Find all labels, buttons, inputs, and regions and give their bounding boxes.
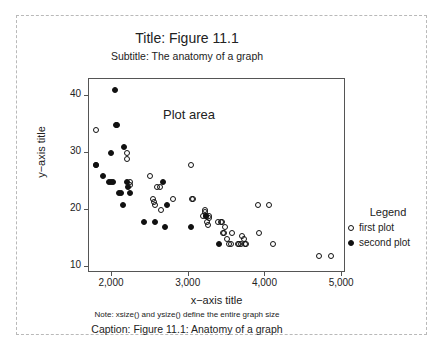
data-point-second-plot [108, 150, 114, 156]
data-point-second-plot [188, 224, 194, 230]
data-point-first-plot [243, 241, 249, 247]
data-point-second-plot [203, 213, 209, 219]
data-point-second-plot [164, 202, 170, 208]
data-point-second-plot [127, 190, 133, 196]
data-point-second-plot [120, 202, 126, 208]
data-point-first-plot [255, 202, 261, 208]
chart-note: Note: xsize() and ysize() define the ent… [17, 310, 357, 319]
data-point-second-plot [141, 219, 147, 225]
plot-area: Plot area [88, 78, 345, 272]
legend-entry: first plot [348, 222, 440, 233]
filled-circle-icon [348, 240, 354, 246]
data-point-first-plot [188, 162, 194, 168]
open-circle-icon [348, 225, 354, 231]
data-point-first-plot [152, 202, 158, 208]
data-point-first-plot [170, 196, 176, 202]
data-point-second-plot [160, 179, 166, 185]
data-point-first-plot [266, 202, 272, 208]
y-tick-label: 30 [59, 145, 81, 156]
data-point-second-plot [100, 173, 106, 179]
chart-title: Title: Figure 11.1 [17, 30, 357, 46]
data-point-first-plot [316, 253, 322, 259]
chart-caption: Caption: Figure 11.1: Anatomy of a graph [17, 323, 357, 335]
x-tick-label: 3,000 [166, 277, 210, 288]
x-axis-title: x−axis title [88, 294, 345, 306]
x-tick-mark [341, 272, 342, 276]
y-tick-label: 10 [59, 259, 81, 270]
data-point-second-plot [162, 224, 168, 230]
x-tick-mark [188, 272, 189, 276]
legend-entry: second plot [348, 237, 440, 248]
plot-area-annotation: Plot area [163, 107, 215, 122]
y-tick-label: 20 [59, 202, 81, 213]
y-axis-title: y−axis title [35, 92, 47, 212]
data-point-second-plot [112, 87, 118, 93]
x-tick-mark [264, 272, 265, 276]
data-point-first-plot [256, 230, 262, 236]
x-tick-mark [111, 272, 112, 276]
data-point-first-plot [93, 127, 99, 133]
data-point-second-plot [152, 219, 158, 225]
legend-entries: first plotsecond plot [348, 222, 440, 248]
data-point-second-plot [93, 162, 99, 168]
legend-entry-label: first plot [359, 222, 394, 233]
data-point-first-plot [270, 241, 276, 247]
y-tick-label: 40 [59, 88, 81, 99]
data-point-second-plot [216, 241, 222, 247]
data-point-first-plot [157, 184, 163, 190]
chart-subtitle: Subtitle: The anatomy of a graph [17, 50, 357, 62]
data-point-second-plot [114, 122, 120, 128]
x-tick-label: 4,000 [242, 277, 286, 288]
data-point-second-plot [118, 190, 124, 196]
data-point-first-plot [147, 173, 153, 179]
x-tick-label: 2,000 [89, 277, 133, 288]
data-point-first-plot [205, 222, 211, 228]
legend: Legend first plotsecond plot [348, 206, 440, 248]
data-point-first-plot [328, 253, 334, 259]
data-point-second-plot [110, 179, 116, 185]
data-point-first-plot [229, 230, 235, 236]
data-point-first-plot [158, 207, 164, 213]
legend-entry-label: second plot [359, 237, 410, 248]
data-point-first-plot [190, 196, 196, 202]
data-point-first-plot [124, 156, 130, 162]
legend-title: Legend [348, 206, 428, 218]
figure-outer-border: Title: Figure 11.1 Subtitle: The anatomy… [16, 15, 427, 335]
x-tick-label: 5,000 [319, 277, 363, 288]
